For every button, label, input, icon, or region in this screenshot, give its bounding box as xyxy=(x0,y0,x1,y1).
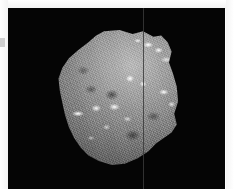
page-margin-right xyxy=(226,0,234,196)
specimen-image xyxy=(52,30,182,165)
left-edge-tick xyxy=(0,38,5,47)
surface-texture-overlay xyxy=(52,30,182,165)
photographic-plate xyxy=(8,8,225,189)
clipped-caption xyxy=(8,190,226,196)
page-margin-left xyxy=(0,0,8,196)
figure-page xyxy=(0,0,234,196)
rock-specimen xyxy=(52,30,182,165)
vertical-scan-line xyxy=(143,8,144,189)
